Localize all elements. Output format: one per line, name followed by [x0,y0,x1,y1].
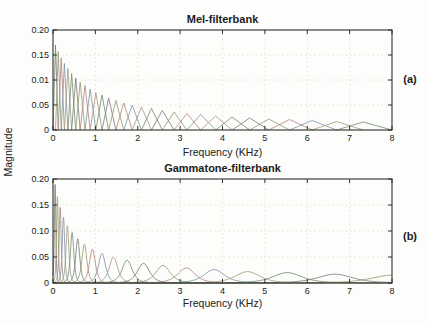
panel-b-xlabel: Frequency (KHz) [183,297,262,309]
filter-curve [216,117,250,130]
filter-curve [90,93,102,131]
y-tick-label: 0.05 [31,252,49,262]
grid-lines [53,179,392,283]
filterbank-figure: 0123456780.200.150.010.050 Mel-filterban… [0,0,429,324]
panel-a-label: (a) [403,73,417,85]
x-tick-label: 7 [347,133,352,143]
filter-curve [290,121,337,131]
y-tick-label: 0 [44,278,49,288]
x-tick-label: 0 [50,133,55,143]
y-axis-label: Magnitude [2,127,14,176]
filter-curve [96,95,109,130]
x-tick-label: 5 [262,286,267,296]
x-tick-label: 5 [262,133,267,143]
x-tick-label: 6 [305,286,310,296]
y-tick-label: 0.01 [31,75,49,85]
x-tick-label: 2 [135,133,140,143]
x-tick-label: 8 [389,133,394,143]
filter-curve [337,122,392,130]
gammatone-filterbank-panel: 0123456780.200.150.100.050 Gammatone-fil… [31,162,417,309]
panel-b-label: (b) [403,230,417,242]
filter-curve [102,98,116,130]
x-tick-label: 8 [389,286,394,296]
filter-curve [162,112,187,130]
panel-a-title: Mel-filterbank [187,13,259,25]
x-tick-label: 7 [347,286,352,296]
y-tick-label: 0.15 [31,200,49,210]
filter-curve [132,107,151,130]
y-tick-label: 0 [44,125,49,135]
filter-curve [80,86,90,131]
y-tick-label: 0.10 [31,226,49,236]
x-tick-label: 1 [93,133,98,143]
filter-curve [232,118,269,130]
mel-filterbank-panel: 0123456780.200.150.010.050 Mel-filterban… [31,13,417,158]
panel-a-xlabel: Frequency (KHz) [183,146,262,158]
y-tick-label: 0.20 [31,25,49,35]
y-tick-label: 0.20 [31,174,49,184]
filter-curve [201,116,232,130]
x-tick-label: 4 [220,133,225,143]
filter-curve [141,109,162,131]
filter-curve [104,269,325,283]
y-tick-label: 0.15 [31,50,49,60]
x-tick-label: 6 [305,133,310,143]
x-tick-label: 1 [93,286,98,296]
y-tick-label: 0.05 [31,100,49,110]
panel-b-title: Gammatone-filterbank [164,162,282,174]
grid-lines [53,30,392,130]
filter-curve [187,115,216,131]
figure-page: { "figure": { "background": "#fdfdfb", "… [0,0,429,324]
x-tick-label: 4 [220,286,225,296]
filter-curve [269,120,312,131]
x-tick-label: 3 [178,133,183,143]
filter-curve [116,103,132,130]
x-tick-label: 0 [50,286,55,296]
filter-curve [124,105,142,130]
filter-curve [250,119,290,130]
x-tick-label: 2 [135,286,140,296]
filter-curve [85,89,96,130]
x-tick-label: 3 [178,286,183,296]
filter-curve [151,111,174,131]
filter-curve [312,122,363,131]
filter-curve [174,114,201,131]
